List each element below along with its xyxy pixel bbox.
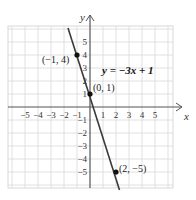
y-tick-label: −5 — [77, 167, 87, 177]
x-tick-label: 3 — [127, 110, 132, 120]
point-2-neg5 — [113, 169, 118, 174]
y-tick-label: 1 — [83, 89, 88, 99]
line-series — [68, 28, 120, 190]
x-tick-label: 2 — [114, 110, 119, 120]
y-tick-label: −3 — [77, 141, 87, 151]
y-tick-label: 4 — [83, 50, 88, 60]
x-tick-label: −5 — [20, 110, 30, 120]
y-tick-label: −1 — [77, 115, 87, 125]
x-tick-label: −2 — [59, 110, 69, 120]
point-label-0-1: (0, 1) — [93, 82, 115, 94]
equation-label: y = −3x + 1 — [100, 64, 154, 76]
point-0-1 — [87, 91, 92, 96]
point-label-neg1-4: (−1, 4) — [42, 54, 69, 66]
y-axis-label: y — [79, 11, 85, 23]
y-tick-label: 5 — [83, 37, 88, 47]
graph: x y −5−4−3−2−112345−5−4−3−2−112345 (−1, … — [0, 0, 196, 200]
y-tick-label: −2 — [77, 128, 87, 138]
x-axis-label: x — [183, 110, 189, 122]
axes: x y — [8, 11, 189, 188]
x-tick-label: −4 — [33, 110, 43, 120]
y-tick-label: −4 — [77, 154, 87, 164]
point-label-2-neg5: (2, −5) — [119, 163, 146, 175]
x-tick-label: 1 — [101, 110, 106, 120]
x-tick-label: 5 — [153, 110, 158, 120]
y-tick-label: 3 — [83, 63, 88, 73]
x-tick-label: 4 — [140, 110, 145, 120]
point-neg1-4 — [74, 52, 79, 57]
x-tick-label: −3 — [46, 110, 56, 120]
